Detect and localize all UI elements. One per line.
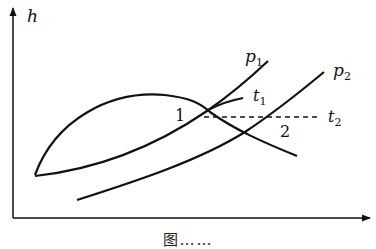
curve-p1 — [35, 61, 268, 176]
axes — [13, 8, 370, 218]
label-t2: t2 — [328, 107, 341, 129]
point-2-label: 2 — [280, 122, 290, 141]
label-p1: p1 — [245, 46, 263, 69]
label-t1: t1 — [253, 86, 266, 108]
label-p2: p2 — [333, 60, 351, 83]
y-axis-label: h — [27, 6, 38, 26]
figure-caption: 图…… — [0, 228, 376, 248]
point-1-label: 1 — [175, 106, 185, 125]
curve-t1 — [208, 98, 243, 110]
